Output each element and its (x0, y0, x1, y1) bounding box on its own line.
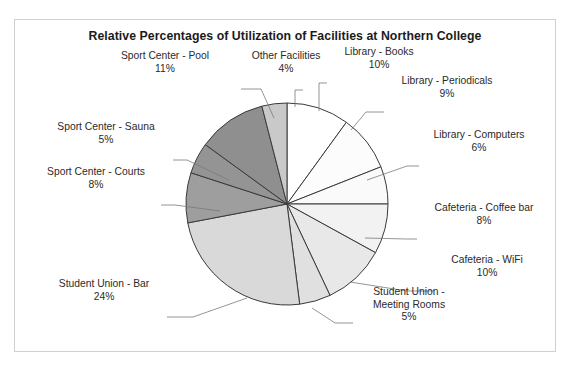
label-cafeteria-wifi: Cafeteria - WiFi 10% (431, 254, 543, 279)
label-cafeteria-coffee-bar-pct: 8% (413, 215, 555, 228)
leader-line-library-periodicals (351, 112, 384, 130)
label-library-books-pct: 10% (325, 59, 433, 72)
label-sport-center-sauna-pct: 5% (39, 134, 173, 147)
page-top-bleed-text: · · · · · · · · · (0, 0, 574, 10)
label-library-periodicals: Library - Periodicals 9% (381, 75, 513, 100)
label-library-books-name: Library - Books (344, 46, 413, 57)
bleed-glyphs: · · · · · · · · · (6, 0, 60, 3)
label-cafeteria-coffee-bar-name: Cafeteria - Coffee bar (435, 202, 534, 213)
label-library-computers: Library - Computers 6% (415, 129, 543, 154)
label-library-periodicals-pct: 9% (381, 88, 513, 101)
label-library-books: Library - Books 10% (325, 46, 433, 71)
label-library-periodicals-name: Library - Periodicals (402, 75, 493, 86)
leader-line-su-meeting-rooms (312, 308, 353, 323)
label-su-meeting-rooms-line2: Meeting Rooms (351, 299, 467, 312)
label-sport-center-sauna-name: Sport Center - Sauna (57, 121, 154, 132)
leader-line-su-bar (167, 298, 247, 317)
label-sport-center-pool-name: Sport Center - Pool (121, 50, 209, 61)
label-sport-center-sauna: Sport Center - Sauna 5% (39, 121, 173, 146)
chart-frame: Relative Percentages of Utilization of F… (14, 19, 556, 352)
label-sport-center-courts: Sport Center - Courts 8% (29, 166, 163, 191)
label-sport-center-pool-pct: 11% (89, 63, 241, 76)
label-su-meeting-rooms-line1: Student Union - (373, 286, 445, 297)
label-su-meeting-rooms-pct: 5% (351, 311, 467, 324)
label-other-facilities-name: Other Facilities (252, 50, 321, 61)
label-library-computers-name: Library - Computers (434, 129, 525, 140)
label-student-union-meeting-rooms: Student Union - Meeting Rooms 5% (351, 286, 467, 324)
label-student-union-bar: Student Union - Bar 24% (39, 278, 169, 303)
label-student-union-bar-name: Student Union - Bar (59, 278, 149, 289)
label-cafeteria-wifi-pct: 10% (431, 267, 543, 280)
leader-line-library-books (319, 83, 327, 111)
label-sport-center-courts-pct: 8% (29, 179, 163, 192)
label-sport-center-pool: Sport Center - Pool 11% (89, 50, 241, 75)
label-cafeteria-coffee-bar: Cafeteria - Coffee bar 8% (413, 202, 555, 227)
label-library-computers-pct: 6% (415, 142, 543, 155)
label-sport-center-courts-name: Sport Center - Courts (47, 166, 145, 177)
label-student-union-bar-pct: 24% (39, 291, 169, 304)
label-cafeteria-wifi-name: Cafeteria - WiFi (451, 254, 523, 265)
pie-slices-group (186, 103, 388, 305)
